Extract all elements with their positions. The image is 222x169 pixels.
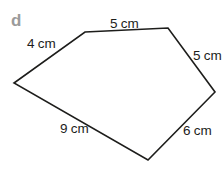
side-label-lower-right: 6 cm bbox=[183, 123, 211, 138]
side-label-upper-left: 4 cm bbox=[27, 36, 55, 51]
pentagon-diagram: d 5 cm 4 cm 5 cm 9 cm 6 cm bbox=[0, 0, 222, 169]
side-label-top: 5 cm bbox=[110, 16, 138, 31]
geometry-figure: d 5 cm 4 cm 5 cm 9 cm 6 cm bbox=[0, 0, 222, 169]
side-label-bottom-left: 9 cm bbox=[60, 121, 88, 136]
question-item-label: d bbox=[11, 11, 21, 30]
side-label-upper-right: 5 cm bbox=[193, 48, 221, 63]
